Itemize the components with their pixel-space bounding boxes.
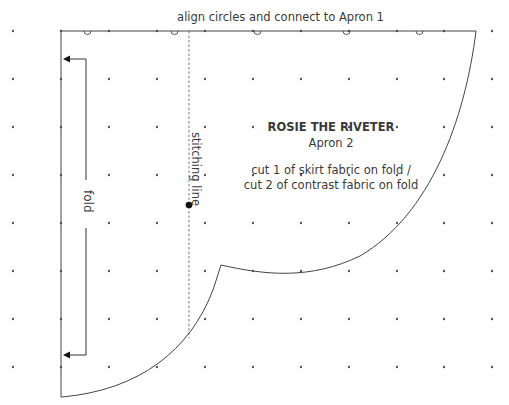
grid-dot xyxy=(204,222,206,224)
arrow-head-icon xyxy=(63,56,70,63)
grid-dot xyxy=(443,270,445,272)
grid-dot xyxy=(348,366,350,368)
grid-dot xyxy=(396,366,398,368)
grid-dot xyxy=(108,78,110,80)
grid-dot xyxy=(491,174,493,176)
grid-dot xyxy=(252,126,254,128)
pattern-title: ROSIE THE RIVETER xyxy=(256,120,406,134)
grid-dot xyxy=(396,78,398,80)
grid-dot xyxy=(204,366,206,368)
fold-label: fold xyxy=(81,190,95,213)
grid-dot xyxy=(443,78,445,80)
grid-dot xyxy=(348,318,350,320)
grid-dot xyxy=(108,366,110,368)
grid-dot xyxy=(300,78,302,80)
grid-dot xyxy=(12,270,14,272)
grid-dot xyxy=(12,30,14,32)
grid-dot xyxy=(156,270,158,272)
grid-dot xyxy=(156,126,158,128)
grid-dot xyxy=(156,366,158,368)
grid-dot xyxy=(108,270,110,272)
grid-dot xyxy=(491,222,493,224)
grid-dot xyxy=(204,270,206,272)
grid-dot xyxy=(252,222,254,224)
grid-dot xyxy=(156,318,158,320)
arrow-head-icon xyxy=(63,352,70,359)
pattern-piece-name: Apron 2 xyxy=(256,136,406,150)
grid-dot xyxy=(491,318,493,320)
grid-dot xyxy=(12,366,14,368)
grid-dot xyxy=(443,366,445,368)
grid-dot xyxy=(396,222,398,224)
grid-dot xyxy=(491,30,493,32)
grid-dot xyxy=(108,126,110,128)
grid-dot xyxy=(12,126,14,128)
grid-dot xyxy=(348,222,350,224)
pattern-outline xyxy=(61,31,476,397)
cut-instruction-1: cut 1 of skirt fabric on fold / xyxy=(226,163,436,177)
connect-instruction: align circles and connect to Apron 1 xyxy=(0,10,509,24)
grid-dot xyxy=(300,318,302,320)
grid-dot xyxy=(108,318,110,320)
grid-dot xyxy=(443,222,445,224)
grid-dot xyxy=(491,366,493,368)
grid-dot xyxy=(204,78,206,80)
stitching-line-label: stitching line xyxy=(189,132,203,206)
grid-dot xyxy=(156,222,158,224)
grid-dot xyxy=(252,318,254,320)
grid-dot xyxy=(348,270,350,272)
grid-dot xyxy=(204,174,206,176)
grid-dot xyxy=(491,78,493,80)
grid-dot xyxy=(491,126,493,128)
grid-dot xyxy=(396,270,398,272)
grid-dot xyxy=(12,174,14,176)
grid-dot xyxy=(12,318,14,320)
grid-dot xyxy=(252,366,254,368)
cut-instruction-2: cut 2 of contrast fabric on fold xyxy=(226,178,436,192)
grid-dot xyxy=(108,222,110,224)
grid-dot xyxy=(443,318,445,320)
grid-dot xyxy=(300,270,302,272)
grid-dot xyxy=(108,174,110,176)
grid-dot xyxy=(348,78,350,80)
grid-dot xyxy=(252,78,254,80)
grid-dot xyxy=(443,174,445,176)
grid-dot xyxy=(396,318,398,320)
grid-dot xyxy=(300,366,302,368)
grid-dot xyxy=(204,318,206,320)
grid-dot xyxy=(12,222,14,224)
pattern-drawing xyxy=(0,0,509,405)
grid-dot xyxy=(300,222,302,224)
grid-dot xyxy=(12,78,14,80)
grid-dot xyxy=(204,126,206,128)
grid-dot xyxy=(443,126,445,128)
grid-dot xyxy=(156,174,158,176)
grid-dot xyxy=(491,270,493,272)
grid-dot xyxy=(156,78,158,80)
